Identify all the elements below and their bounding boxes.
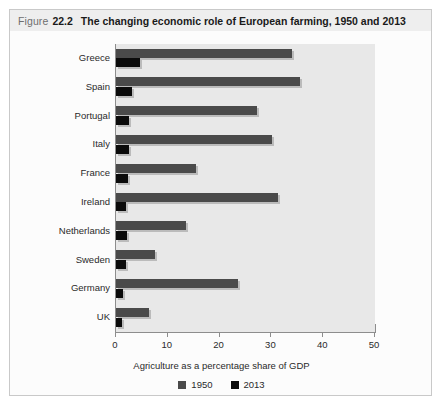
legend-label: 1950 xyxy=(191,379,212,390)
bar-row: Ireland xyxy=(116,188,375,217)
bar-2013-portugal xyxy=(116,116,129,125)
bar-2013-sweden xyxy=(116,260,126,269)
x-tick-label: 20 xyxy=(213,339,224,350)
x-tick-label: 30 xyxy=(265,339,276,350)
bar-2013-greece xyxy=(116,58,140,67)
category-label: Italy xyxy=(93,130,110,159)
bar-row: Germany xyxy=(116,274,375,303)
bar-2013-netherlands xyxy=(116,231,127,240)
x-tick-label: 50 xyxy=(369,339,380,350)
category-label: Ireland xyxy=(81,188,110,217)
bar-2013-france xyxy=(116,174,128,183)
bar-2013-italy xyxy=(116,145,129,154)
x-tick xyxy=(270,332,271,337)
figure-container: Figure 22.2 The changing economic role o… xyxy=(0,0,441,405)
bar-row: Netherlands xyxy=(116,217,375,246)
x-tick-label: 10 xyxy=(162,339,173,350)
category-label: Germany xyxy=(71,274,110,303)
bar-1950-netherlands xyxy=(116,221,186,230)
bar-row: UK xyxy=(116,303,375,332)
plot-area: GreeceSpainPortugalItalyFranceIrelandNet… xyxy=(115,44,375,333)
x-tick xyxy=(115,332,116,337)
bar-rows: GreeceSpainPortugalItalyFranceIrelandNet… xyxy=(116,44,375,332)
bar-1950-uk xyxy=(116,308,149,317)
bar-2013-uk xyxy=(116,318,122,327)
category-label: Portugal xyxy=(75,102,110,131)
x-tick-label: 40 xyxy=(317,339,328,350)
bar-row: Spain xyxy=(116,73,375,102)
bar-row: Italy xyxy=(116,130,375,159)
x-tick xyxy=(322,332,323,337)
bar-1950-italy xyxy=(116,135,272,144)
bar-1950-ireland xyxy=(116,193,278,202)
caption-figure-title: The changing economic role of European f… xyxy=(81,15,406,27)
legend-swatch-icon xyxy=(178,381,186,389)
bar-2013-spain xyxy=(116,87,132,96)
bar-row: Sweden xyxy=(116,246,375,275)
x-tick xyxy=(374,332,375,337)
bar-1950-spain xyxy=(116,77,300,86)
category-label: Greece xyxy=(79,44,110,73)
category-label: Sweden xyxy=(76,246,110,275)
category-label: Netherlands xyxy=(59,217,110,246)
x-tick xyxy=(167,332,168,337)
legend-swatch-icon xyxy=(231,381,239,389)
legend-label: 2013 xyxy=(244,379,265,390)
bar-1950-portugal xyxy=(116,106,257,115)
x-axis-label: Agriculture as a percentage share of GDP xyxy=(10,360,433,371)
legend-item-2013[interactable]: 2013 xyxy=(231,379,265,390)
bar-1950-germany xyxy=(116,279,238,288)
caption-figure-number: 22.2 xyxy=(52,15,72,27)
chart-legend: 19502013 xyxy=(10,379,433,390)
category-label: UK xyxy=(97,303,110,332)
bar-row: Portugal xyxy=(116,102,375,131)
bar-2013-germany xyxy=(116,289,123,298)
chart-panel: GreeceSpainPortugalItalyFranceIrelandNet… xyxy=(9,31,432,396)
bar-row: Greece xyxy=(116,44,375,73)
bar-1950-sweden xyxy=(116,250,155,259)
caption-figure-word: Figure xyxy=(18,15,48,27)
bar-1950-france xyxy=(116,164,196,173)
bar-2013-ireland xyxy=(116,202,126,211)
bar-1950-greece xyxy=(116,49,292,58)
legend-item-1950[interactable]: 1950 xyxy=(178,379,212,390)
x-tick xyxy=(219,332,220,337)
bar-row: France xyxy=(116,159,375,188)
category-label: Spain xyxy=(86,73,110,102)
x-tick-label: 0 xyxy=(112,339,117,350)
figure-caption-bar: Figure 22.2 The changing economic role o… xyxy=(9,9,432,31)
category-label: France xyxy=(80,159,110,188)
plot-wrapper: GreeceSpainPortugalItalyFranceIrelandNet… xyxy=(10,31,433,396)
x-axis: 01020304050 xyxy=(115,332,375,358)
